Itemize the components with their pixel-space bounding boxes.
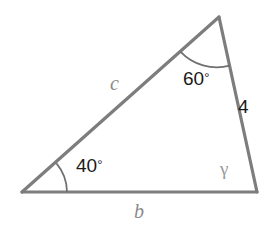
angle-label-top-value: 60 xyxy=(183,68,204,89)
side-c-line xyxy=(22,17,219,192)
side-label-a: 4 xyxy=(238,97,249,116)
triangle-diagram: 60° 40° 4 b c γ xyxy=(0,0,279,241)
angle-arc-60 xyxy=(180,52,229,68)
angle-label-gamma: γ xyxy=(220,159,228,178)
side-label-c: c xyxy=(110,73,119,93)
degree-symbol-top: ° xyxy=(204,70,209,85)
angle-arc-40 xyxy=(56,163,67,192)
angle-label-left: 40° xyxy=(76,156,102,175)
angle-label-left-value: 40 xyxy=(76,155,97,176)
angle-label-top: 60° xyxy=(183,69,209,88)
side-label-b: b xyxy=(134,201,144,221)
degree-symbol-left: ° xyxy=(97,157,102,172)
